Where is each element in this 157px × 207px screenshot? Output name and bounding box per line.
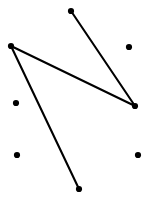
- path-point-1: [68, 8, 74, 14]
- isolated-point-3: [14, 152, 20, 158]
- isolated-point-2: [13, 100, 19, 106]
- path-point-4: [76, 186, 82, 192]
- path-point-2: [132, 103, 138, 109]
- isolated-point-4: [135, 152, 141, 158]
- scatter-plot-canvas: [0, 0, 157, 207]
- plot-svg: [0, 0, 157, 207]
- isolated-point-1: [126, 44, 132, 50]
- path-point-3: [8, 43, 14, 49]
